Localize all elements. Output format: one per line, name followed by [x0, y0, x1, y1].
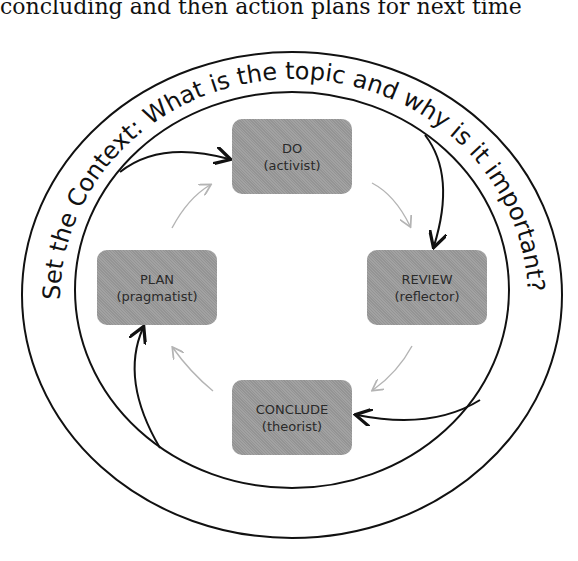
arrow-plan-to-do	[172, 185, 210, 228]
stage-review-title: REVIEW	[401, 271, 452, 288]
stage-conclude-title: CONCLUDE	[256, 401, 328, 418]
stage-do: DO (activist)	[232, 119, 352, 194]
stage-do-title: DO	[282, 140, 302, 157]
stage-conclude-role: (theorist)	[262, 418, 322, 435]
stage-plan: PLAN (pragmatist)	[97, 250, 217, 325]
stage-conclude: CONCLUDE (theorist)	[232, 380, 352, 455]
learning-cycle-diagram: Set the Context: What is the topic and w…	[0, 0, 578, 561]
stage-plan-role: (pragmatist)	[116, 288, 197, 305]
arrow-do-to-review	[372, 183, 410, 226]
arrow-ring-to-review	[425, 135, 443, 246]
stage-review: REVIEW (reflector)	[367, 250, 487, 325]
stage-do-role: (activist)	[263, 157, 320, 174]
stage-review-role: (reflector)	[395, 288, 460, 305]
arrow-review-to-conclude	[373, 346, 412, 390]
arrow-conclude-to-plan	[173, 348, 213, 391]
stage-plan-title: PLAN	[140, 271, 174, 288]
arrow-ring-to-do	[120, 152, 229, 172]
arrow-ring-to-conclude	[357, 400, 480, 420]
